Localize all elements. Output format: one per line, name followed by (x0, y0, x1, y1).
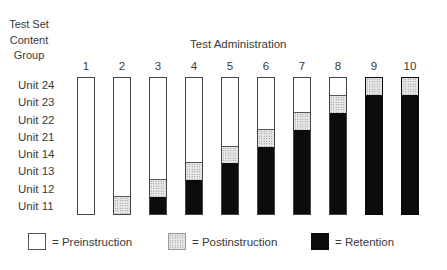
y-axis-title-line3: Group (0, 48, 58, 64)
row-label: Unit 22 (18, 112, 54, 129)
segment-preinstruction (294, 78, 310, 112)
row-label: Unit 14 (18, 146, 54, 163)
y-axis-title-line1: Test Set (0, 17, 58, 33)
legend-label: = Retention (335, 236, 394, 248)
column-label: 5 (220, 60, 240, 72)
segment-preinstruction (186, 78, 202, 162)
row-label: Unit 12 (18, 181, 54, 198)
legend-item-postinstruction: = Postinstruction (168, 233, 277, 250)
segment-postinstruction (330, 95, 346, 113)
row-label: Unit 23 (18, 94, 54, 111)
legend-item-preinstruction: = Preinstruction (28, 233, 132, 250)
column-label: 1 (76, 60, 96, 72)
segment-postinstruction (366, 78, 382, 95)
row-label: Unit 13 (18, 163, 54, 180)
bar-administration-9 (365, 77, 383, 215)
column-label: 7 (292, 60, 312, 72)
column-label: 3 (148, 60, 168, 72)
segment-postinstruction (258, 129, 274, 147)
bar-administration-6 (257, 77, 275, 215)
retention-swatch-icon (311, 233, 329, 250)
segment-postinstruction (114, 196, 130, 214)
bar-administration-1 (77, 77, 95, 215)
segment-retention (402, 95, 418, 214)
column-label: 6 (256, 60, 276, 72)
segment-retention (366, 95, 382, 214)
segment-postinstruction (150, 179, 166, 197)
row-label: Unit 24 (18, 77, 54, 94)
column-label: 9 (364, 60, 384, 72)
segment-preinstruction (258, 78, 274, 129)
segment-postinstruction (186, 162, 202, 180)
segment-preinstruction (150, 78, 166, 179)
row-label: Unit 11 (18, 198, 54, 215)
column-label: 2 (112, 60, 132, 72)
bar-administration-3 (149, 77, 167, 215)
legend: = Preinstruction = Postinstruction = Ret… (0, 233, 447, 253)
segment-postinstruction (294, 112, 310, 130)
column-label: 4 (184, 60, 204, 72)
bar-administration-2 (113, 77, 131, 215)
y-axis-title: Test Set Content Group (0, 17, 58, 64)
legend-label: = Postinstruction (192, 236, 277, 248)
segment-preinstruction (222, 78, 238, 146)
segment-postinstruction (402, 78, 418, 95)
segment-retention (186, 180, 202, 214)
segment-retention (258, 147, 274, 215)
bar-administration-7 (293, 77, 311, 215)
bar-administration-10 (401, 77, 419, 215)
legend-label: = Preinstruction (52, 236, 132, 248)
legend-item-retention: = Retention (311, 233, 394, 250)
segment-postinstruction (222, 146, 238, 164)
segment-preinstruction (114, 78, 130, 196)
postinstruction-swatch-icon (168, 233, 186, 250)
column-label: 10 (400, 60, 420, 72)
segment-retention (150, 197, 166, 214)
x-axis-title: Test Administration (190, 38, 287, 50)
segment-preinstruction (78, 78, 94, 214)
segment-retention (330, 113, 346, 214)
row-label: Unit 21 (18, 129, 54, 146)
bar-administration-8 (329, 77, 347, 215)
segment-preinstruction (330, 78, 346, 95)
y-axis-title-line2: Content (0, 33, 58, 49)
preinstruction-swatch-icon (28, 233, 46, 250)
bar-administration-4 (185, 77, 203, 215)
segment-retention (294, 130, 310, 214)
segment-retention (222, 163, 238, 214)
bar-administration-5 (221, 77, 239, 215)
column-label: 8 (328, 60, 348, 72)
